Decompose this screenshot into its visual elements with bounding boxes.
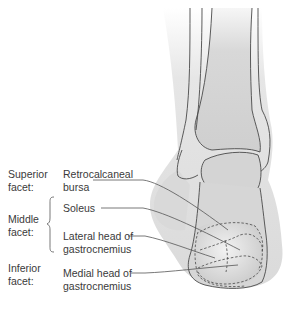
facet-label-superior-line1: Superior	[8, 168, 48, 181]
facet-label-inferior-line1: Inferior	[8, 262, 41, 275]
facet-label-superior-line2: facet:	[8, 181, 48, 194]
facet-label-inferior-line2: facet:	[8, 275, 41, 288]
facet-label-inferior: Inferior facet:	[8, 262, 41, 287]
structure-label-lateral-line1: Lateral head of	[63, 230, 133, 243]
heel-anatomy-diagram	[0, 0, 300, 309]
middle-facet-brace	[47, 197, 54, 252]
facet-label-superior: Superior facet:	[8, 168, 48, 193]
structure-label-retrocalcaneal-line1: Retrocalcaneal	[63, 168, 133, 181]
facet-label-middle-line2: facet:	[8, 226, 39, 239]
structure-label-soleus-line1: Soleus	[63, 202, 95, 215]
posterior-calcaneal-surface	[196, 221, 263, 285]
facet-label-middle-line1: Middle	[8, 213, 39, 226]
structure-label-soleus: Soleus	[63, 202, 95, 215]
structure-label-medial-gastrocnemius: Medial head of gastrocnemius	[63, 267, 132, 292]
structure-label-medial-line2: gastrocnemius	[63, 280, 132, 293]
structure-label-medial-line1: Medial head of	[63, 267, 132, 280]
structure-label-retrocalcaneal-line2: bursa	[63, 181, 133, 194]
structure-label-lateral-line2: gastrocnemius	[63, 243, 133, 256]
structure-label-retrocalcaneal-bursa: Retrocalcaneal bursa	[63, 168, 133, 193]
structure-label-lateral-gastrocnemius: Lateral head of gastrocnemius	[63, 230, 133, 255]
facet-label-middle: Middle facet:	[8, 213, 39, 238]
